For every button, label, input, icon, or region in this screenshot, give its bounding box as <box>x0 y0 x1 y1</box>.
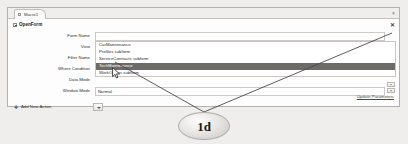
argument-label: Window Mode <box>8 88 90 93</box>
macro-designer-panel: Macro1 × OpenForm ✕ Form Name View Filte… <box>7 7 400 107</box>
window-mode-input[interactable]: Normal <box>95 87 385 96</box>
dropdown-item[interactable]: WorkOrders subform <box>96 70 395 77</box>
dropdown-item[interactable]: CarMaintenance <box>96 42 395 49</box>
action-title: OpenForm <box>19 22 42 27</box>
scroll-up-button[interactable] <box>387 82 395 87</box>
plus-icon[interactable]: ✚ <box>13 105 18 110</box>
chevron-down-icon[interactable] <box>93 103 103 111</box>
annotation-callout: 1d <box>178 112 230 140</box>
dropdown-item-selected[interactable]: TechMaintenance <box>96 63 395 70</box>
add-new-action-label: Add New Action <box>21 104 51 109</box>
argument-row-window-mode: Window Mode Normal <box>8 86 399 97</box>
update-parameters-link[interactable]: Update Parameters <box>357 94 394 99</box>
dropdown-item[interactable]: ServiceContracts subform <box>96 56 395 63</box>
close-icon[interactable]: ✕ <box>390 22 395 29</box>
scroll-down-button[interactable] <box>387 88 395 93</box>
mouse-cursor-icon <box>112 67 121 79</box>
argument-value: Normal <box>98 89 112 94</box>
annotation-label: 1d <box>179 119 229 135</box>
dropdown-item[interactable]: Profiles subform <box>96 49 395 56</box>
tab-macro1[interactable]: Macro1 <box>14 9 46 19</box>
argument-label: Where Condition <box>8 66 90 71</box>
argument-label: View <box>8 44 90 49</box>
form-name-dropdown-list[interactable]: CarMaintenance Profiles subform ServiceC… <box>95 41 396 77</box>
close-icon[interactable]: × <box>392 10 395 17</box>
argument-label: Filter Name <box>8 55 90 60</box>
argument-label: Form Name <box>8 33 90 38</box>
action-header: OpenForm ✕ <box>8 21 399 30</box>
argument-label: Data Mode <box>8 77 90 82</box>
tab-label: Macro1 <box>24 12 38 17</box>
tab-strip: Macro1 × <box>8 8 399 19</box>
collapse-minus-icon[interactable] <box>13 23 17 27</box>
form-name-input[interactable] <box>95 32 385 41</box>
